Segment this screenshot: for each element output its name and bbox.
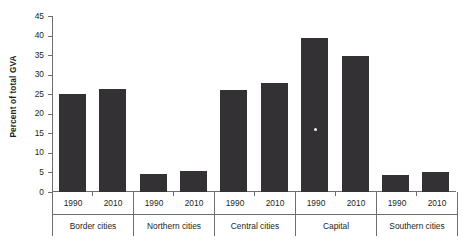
x-axis-year-label: 2010 (174, 198, 214, 208)
bar (382, 175, 409, 192)
x-axis-year-label: 2010 (93, 198, 133, 208)
x-axis-year-label: 1990 (296, 198, 336, 208)
y-axis-tick-label: 15 (35, 127, 44, 139)
plot-area: 051015202530354045 (52, 16, 456, 192)
category-label-table: 19902010Border cities19902010Northern ci… (52, 192, 458, 236)
bar (99, 89, 126, 192)
x-axis-group-label: Capital (296, 215, 376, 236)
y-axis-tick: 15 (0, 133, 52, 134)
bar (220, 90, 247, 192)
bars-layer (52, 16, 456, 192)
category-year-row: 19902010 (377, 192, 457, 215)
category-group: 19902010Northern cities (134, 192, 215, 236)
x-axis-group-label: Southern cities (377, 215, 457, 236)
category-group: 19902010Border cities (53, 192, 134, 236)
x-axis-group-label: Central cities (215, 215, 295, 236)
y-axis-title-label: Percent of total GVA (9, 55, 18, 137)
y-axis-tick: 40 (0, 36, 52, 37)
x-axis-year-label: 1990 (215, 198, 255, 208)
category-year-row: 19902010 (296, 192, 376, 215)
bar (180, 171, 207, 192)
category-group: 19902010Capital (296, 192, 377, 236)
bar (261, 83, 288, 192)
bar (301, 38, 328, 192)
x-axis-year-label: 1990 (53, 198, 93, 208)
y-axis-tick: 30 (0, 75, 52, 76)
y-axis-tick-label: 5 (39, 166, 44, 178)
y-axis-tick-label: 20 (35, 107, 44, 119)
category-year-row: 19902010 (134, 192, 214, 215)
category-group: 19902010Central cities (215, 192, 296, 236)
y-axis-title: Percent of total GVA (2, 0, 24, 192)
x-axis-year-label: 1990 (134, 198, 174, 208)
y-axis-tick-label: 10 (35, 146, 44, 158)
bar (59, 94, 86, 192)
category-year-row: 19902010 (53, 192, 133, 215)
y-axis-tick: 25 (0, 94, 52, 95)
bar (140, 174, 167, 192)
category-group: 19902010Southern cities (377, 192, 457, 236)
y-axis-tick: 5 (0, 172, 52, 173)
y-axis-tick-label: 30 (35, 68, 44, 80)
x-axis-group-label: Border cities (53, 215, 133, 236)
y-axis-tick-label: 25 (35, 88, 44, 100)
y-axis-tick: 10 (0, 153, 52, 154)
bar (422, 172, 449, 192)
bar (342, 56, 369, 192)
y-axis-tick-label: 0 (39, 186, 44, 198)
category-year-row: 19902010 (215, 192, 295, 215)
y-axis-tick: 45 (0, 16, 52, 17)
x-axis-year-label: 1990 (377, 198, 417, 208)
y-axis-tick: 20 (0, 114, 52, 115)
x-axis-group-label: Northern cities (134, 215, 214, 236)
y-axis-tick-label: 40 (35, 29, 44, 41)
x-axis-year-label: 2010 (417, 198, 457, 208)
y-axis-tick: 0 (0, 192, 52, 193)
y-axis-tick: 35 (0, 55, 52, 56)
y-axis-tick-label: 35 (35, 49, 44, 61)
x-axis-year-label: 2010 (255, 198, 295, 208)
x-axis-year-label: 2010 (336, 198, 376, 208)
bar-chart: Percent of total GVA 051015202530354045 … (0, 0, 468, 243)
y-axis-tick-label: 45 (35, 10, 44, 22)
